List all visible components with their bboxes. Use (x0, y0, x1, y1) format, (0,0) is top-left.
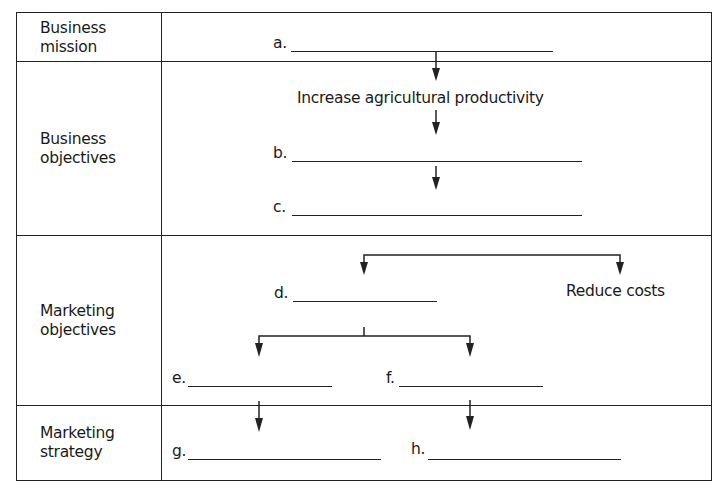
flow-arrows (0, 0, 720, 491)
arrowhead-icon (466, 416, 474, 430)
arrowhead-icon (255, 343, 263, 357)
arrowhead-icon (432, 177, 440, 190)
branch-connector-icon (364, 255, 620, 266)
arrowhead-icon (360, 262, 368, 275)
arrowhead-icon (466, 343, 474, 357)
arrowhead-icon (255, 418, 263, 432)
arrowhead-icon (616, 262, 624, 275)
branch-connector-icon (259, 336, 470, 346)
arrowhead-icon (432, 68, 440, 81)
arrowhead-icon (432, 122, 440, 135)
